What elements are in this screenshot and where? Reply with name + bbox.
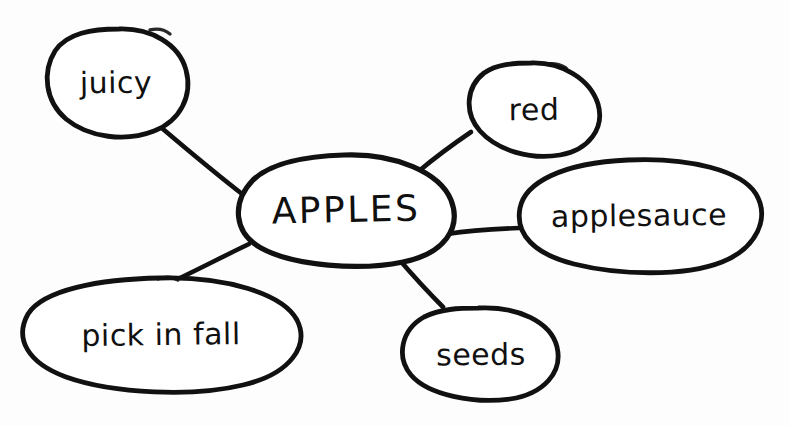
node-red[interactable] xyxy=(469,62,599,156)
edge-seeds xyxy=(397,257,443,307)
node-applesauce[interactable] xyxy=(518,160,760,270)
node-pick-in-fall[interactable] xyxy=(22,278,300,390)
node-apples[interactable] xyxy=(240,155,452,263)
node-juicy[interactable] xyxy=(45,29,187,135)
concept-map-canvas: APPLES juicy red applesauce pick in fall… xyxy=(0,0,789,426)
edge-applesauce xyxy=(447,228,519,234)
node-seeds[interactable] xyxy=(404,308,558,400)
edge-pick-in-fall xyxy=(180,244,249,278)
